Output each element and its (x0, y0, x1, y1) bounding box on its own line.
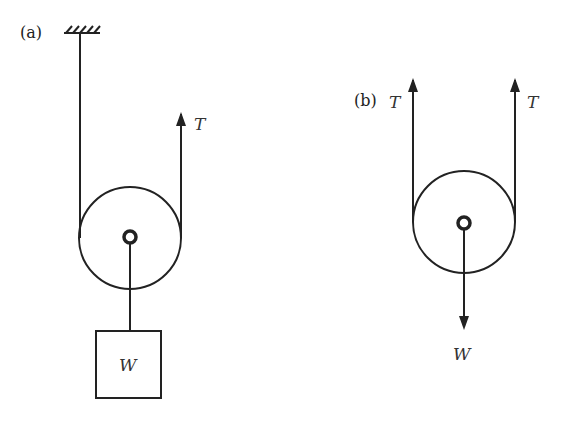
panel-b-label: (b) (354, 91, 377, 110)
tension-left-label: T (389, 92, 402, 112)
pulley-axle-icon (458, 217, 470, 229)
pulley-diagram: (a) T W (b) T T W (0, 0, 574, 422)
arrowhead-up-icon (408, 78, 418, 92)
arrowhead-down-icon (459, 316, 469, 330)
panel-a: (a) T W (20, 23, 207, 398)
tension-right-label: T (527, 92, 540, 112)
panel-a-label: (a) (20, 23, 42, 42)
weight-label: W (119, 355, 138, 375)
arrowhead-up-icon (176, 112, 186, 126)
tension-label: T (194, 114, 207, 134)
arrowhead-up-icon (510, 78, 520, 92)
ceiling-support-icon (64, 26, 100, 33)
weight-label: W (453, 344, 472, 364)
panel-b: (b) T T W (354, 78, 540, 364)
pulley-axle-icon (124, 231, 136, 243)
